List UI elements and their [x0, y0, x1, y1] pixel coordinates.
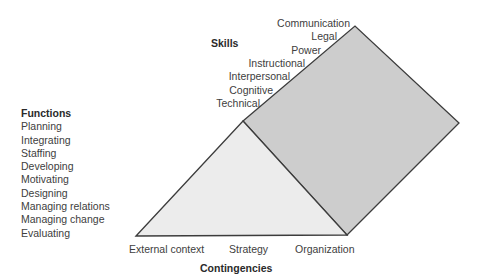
skill-item: Power	[291, 44, 321, 57]
function-item: Designing	[21, 187, 110, 200]
skill-item: Technical	[216, 97, 260, 110]
contingency-item: Organization	[295, 243, 355, 256]
functions-list: Functions Planning Integrating Staffing …	[21, 107, 110, 240]
function-item: Managing relations	[21, 200, 110, 213]
function-item: Developing	[21, 160, 110, 173]
functions-title: Functions	[21, 107, 110, 120]
function-item: Evaluating	[21, 227, 110, 240]
skill-item: Interpersonal	[229, 70, 290, 83]
skills-title: Skills	[211, 37, 238, 50]
contingency-item: Strategy	[229, 243, 268, 256]
skill-item: Legal	[311, 30, 337, 43]
contingency-item: External context	[129, 243, 204, 256]
function-item: Motivating	[21, 173, 110, 186]
contingencies-title: Contingencies	[200, 262, 272, 275]
function-item: Planning	[21, 120, 110, 133]
skill-item: Communication	[277, 17, 350, 30]
function-item: Managing change	[21, 213, 110, 226]
function-item: Staffing	[21, 147, 110, 160]
skill-item: Instructional	[248, 57, 305, 70]
skill-item: Cognitive	[229, 84, 273, 97]
function-item: Integrating	[21, 134, 110, 147]
